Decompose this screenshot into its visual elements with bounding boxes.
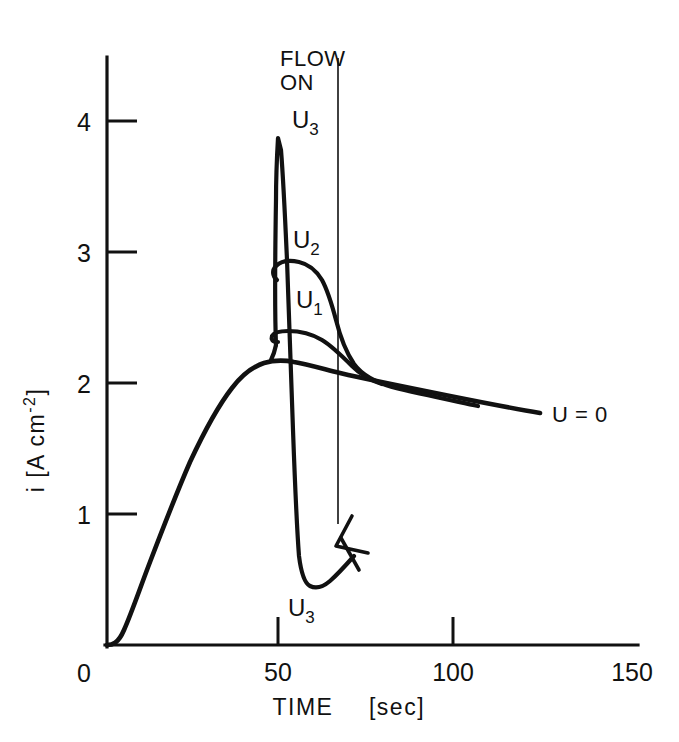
y-tick-label-1: 1: [77, 501, 91, 529]
x-tick-label-50: 50: [264, 658, 292, 686]
u3-top-base: U: [292, 106, 309, 133]
series-label-u3-bottom-text: U3: [288, 594, 315, 627]
x-tick-label-150: 150: [611, 658, 653, 686]
y-axis-title-text: i [A cm-2]: [21, 388, 49, 493]
y-axis-title-main: i [A cm: [23, 413, 49, 493]
x-tick-label-100: 100: [432, 658, 474, 686]
y-tick-label-0: 0: [77, 659, 91, 687]
x-axis-title-text: TIME: [273, 694, 334, 720]
series-label-u3-top: U3: [292, 106, 319, 139]
u1-base: U: [296, 286, 313, 313]
y-tick-labels: 4 3 2 1 0: [77, 108, 91, 687]
x-axis-title: TIME [sec]: [273, 694, 426, 720]
u1-sub: 1: [313, 300, 322, 319]
u3-bottom-base: U: [288, 594, 305, 621]
flow-on-arrowhead: [336, 516, 368, 553]
series-label-u-zero: U = 0: [552, 402, 608, 427]
series-label-u-zero-text: U = 0: [552, 402, 608, 427]
chart-svg: 4 3 2 1 0 i [A cm-2] 50 100 150 TIME [se…: [0, 0, 679, 742]
u2-sub: 2: [310, 240, 319, 259]
y-tick-group: [107, 121, 137, 514]
y-tick-label-3: 3: [77, 239, 91, 267]
series-label-u1-text: U1: [296, 286, 323, 319]
curve-u3-base-hook: [271, 345, 276, 360]
figure-container: 4 3 2 1 0 i [A cm-2] 50 100 150 TIME [se…: [0, 0, 679, 742]
flow-on-label-line1: FLOW: [280, 46, 346, 71]
u3-top-sub: 3: [309, 120, 318, 139]
axis-group: [105, 57, 638, 647]
y-axis-title-bracket: ]: [23, 388, 49, 396]
x-axis-unit-text: [sec]: [369, 694, 425, 720]
y-tick-label-4: 4: [77, 108, 91, 136]
series-label-u3-top-text: U3: [292, 106, 319, 139]
flow-on-label-line2: ON: [280, 70, 314, 95]
u2-base: U: [293, 226, 310, 253]
series-label-u1: U1: [296, 286, 323, 319]
x-tick-labels: 50 100 150: [264, 658, 653, 686]
series-label-u2: U2: [293, 226, 320, 259]
u3-bottom-sub: 3: [305, 608, 314, 627]
y-tick-label-2: 2: [77, 370, 91, 398]
series-label-u3-bottom: U3: [288, 594, 315, 627]
series-label-u2-text: U2: [293, 226, 320, 259]
y-axis-title-exponent: -2: [21, 396, 38, 413]
x-tick-group: [278, 617, 453, 645]
y-axis-title: i [A cm-2]: [21, 388, 49, 493]
